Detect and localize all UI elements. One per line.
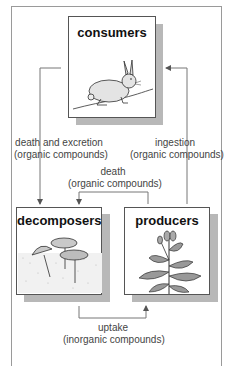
arrow-death-excretion bbox=[40, 68, 61, 204]
label-death-line1: death bbox=[68, 166, 158, 178]
label-ingestion: ingestion (organic compounds) bbox=[130, 137, 220, 161]
arrow-ingestion bbox=[166, 68, 187, 204]
consumers-title: consumers bbox=[69, 25, 155, 40]
arrow-uptake bbox=[79, 306, 146, 318]
label-ingestion-line2: (organic compounds) bbox=[130, 149, 220, 161]
label-uptake-line2: (inorganic compounds) bbox=[63, 334, 163, 346]
mushroom-icon bbox=[18, 233, 102, 293]
label-death-excretion: death and excretion (organic compounds) bbox=[14, 137, 104, 161]
decomposers-box: decomposers bbox=[16, 207, 102, 295]
label-death-excretion-line1: death and excretion bbox=[14, 137, 104, 149]
label-uptake: uptake (inorganic compounds) bbox=[63, 322, 163, 346]
label-uptake-line1: uptake bbox=[63, 322, 163, 334]
rabbit-icon bbox=[73, 47, 153, 117]
label-ingestion-line1: ingestion bbox=[130, 137, 220, 149]
label-death: death (organic compounds) bbox=[68, 166, 158, 190]
arrow-death bbox=[79, 192, 148, 204]
producers-box: producers bbox=[124, 207, 210, 295]
producers-title: producers bbox=[125, 213, 209, 228]
label-death-line2: (organic compounds) bbox=[68, 178, 158, 190]
consumers-box: consumers bbox=[68, 16, 156, 118]
decomposers-title: decomposers bbox=[17, 213, 101, 228]
label-death-excretion-line2: (organic compounds) bbox=[14, 149, 104, 161]
plant-icon bbox=[131, 230, 207, 294]
